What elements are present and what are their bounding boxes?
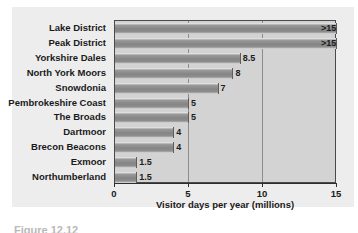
bar-value-label: >15 — [321, 22, 336, 34]
bar-row[interactable]: 5 — [115, 112, 337, 123]
category-label: Northumberland — [32, 171, 106, 182]
bar-value-label: 1.5 — [139, 156, 152, 168]
bar[interactable] — [115, 157, 137, 168]
category-label: Brecon Beacons — [31, 141, 106, 152]
bar-row[interactable]: 7 — [115, 83, 337, 94]
bar[interactable] — [115, 83, 219, 94]
bar[interactable] — [115, 68, 233, 79]
bar[interactable] — [115, 127, 174, 138]
bar-value-label: 7 — [221, 82, 226, 94]
plot-inner: >15>158.58755441.51.5 — [115, 21, 335, 182]
figure-caption: Figure 12.12 — [14, 224, 78, 233]
bar-value-label: 1.5 — [139, 171, 152, 183]
bar[interactable] — [115, 98, 189, 109]
bar-row[interactable]: 8 — [115, 68, 337, 79]
y-axis-category-labels: Lake DistrictPeak DistrictYorkshire Dale… — [0, 20, 110, 183]
bar-value-label: 4 — [176, 126, 181, 138]
bar-chart: >15>158.58755441.51.5 Lake DistrictPeak … — [0, 0, 358, 233]
x-tick — [262, 183, 263, 187]
bar-value-label: 4 — [176, 141, 181, 153]
x-tick — [188, 183, 189, 187]
bar-row[interactable]: >15 — [115, 23, 337, 34]
x-tick-label: 0 — [111, 188, 116, 199]
bar[interactable] — [115, 172, 137, 183]
bar[interactable] — [115, 53, 241, 64]
bar-value-label: 5 — [191, 111, 196, 123]
bar[interactable] — [115, 23, 337, 34]
x-tick — [336, 183, 337, 187]
category-label: The Broads — [54, 111, 106, 122]
bar-row[interactable]: 8.5 — [115, 53, 337, 64]
bar-value-label: 8.5 — [243, 52, 256, 64]
x-axis-title: Visitor days per year (millions) — [114, 199, 336, 210]
category-label: North York Moors — [27, 67, 106, 78]
bar-value-label: 8 — [235, 67, 240, 79]
bar-row[interactable]: 1.5 — [115, 157, 337, 168]
x-axis-line — [114, 183, 336, 184]
category-label: Exmoor — [71, 156, 106, 167]
bar[interactable] — [115, 38, 337, 49]
bar-row[interactable]: 1.5 — [115, 172, 337, 183]
category-label: Dartmoor — [63, 126, 106, 137]
bar-row[interactable]: 4 — [115, 142, 337, 153]
category-label: Lake District — [49, 22, 106, 33]
category-label: Peak District — [48, 37, 106, 48]
x-tick-label: 10 — [257, 188, 268, 199]
category-label: Snowdonia — [55, 82, 106, 93]
bar-row[interactable]: 4 — [115, 127, 337, 138]
x-tick-label: 15 — [331, 188, 342, 199]
x-tick — [114, 183, 115, 187]
plot-area: >15>158.58755441.51.5 — [114, 20, 336, 183]
category-label: Yorkshire Dales — [35, 52, 106, 63]
x-tick-label: 5 — [185, 188, 190, 199]
bar-row[interactable]: >15 — [115, 38, 337, 49]
bar-value-label: >15 — [321, 37, 336, 49]
bar-row[interactable]: 5 — [115, 98, 337, 109]
category-label: Pembrokeshire Coast — [8, 97, 106, 108]
bar[interactable] — [115, 142, 174, 153]
bar-value-label: 5 — [191, 97, 196, 109]
bar[interactable] — [115, 112, 189, 123]
